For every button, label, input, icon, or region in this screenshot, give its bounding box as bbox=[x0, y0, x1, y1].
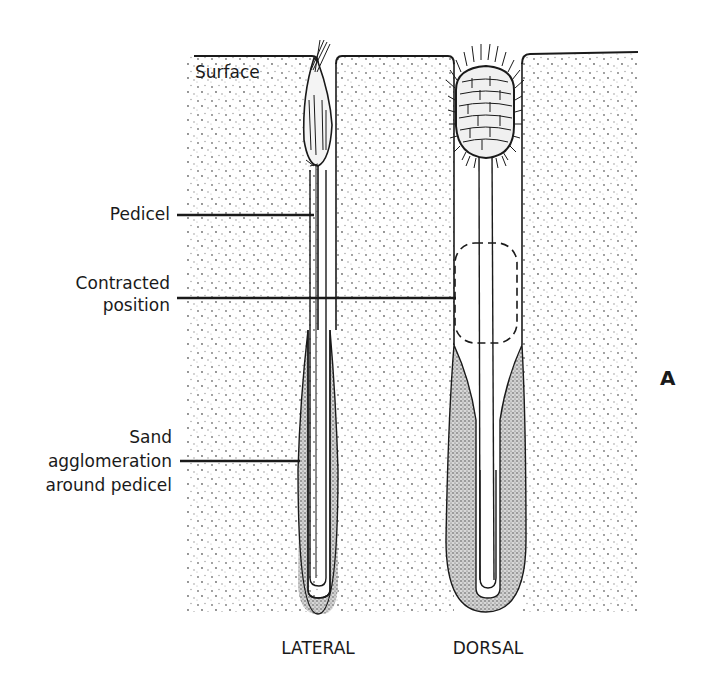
dorsal-view-label: DORSAL bbox=[428, 638, 548, 658]
burrow-diagram bbox=[0, 0, 713, 688]
contracted-position-label-line-1: Contracted bbox=[20, 272, 170, 294]
sand-agglomeration-label-line-2: agglomeration bbox=[10, 449, 172, 473]
panel-letter: A bbox=[660, 368, 675, 388]
sand-agglomeration-label-line-3: around pedicel bbox=[10, 473, 172, 497]
lateral-view-label: LATERAL bbox=[258, 638, 378, 658]
surface-label: Surface bbox=[195, 62, 260, 82]
contracted-position-label-line-2: position bbox=[20, 294, 170, 316]
dorsal-burrow bbox=[446, 44, 526, 612]
sand-agglomeration-label: Sand agglomeration around pedicel bbox=[10, 425, 172, 497]
sand-agglomeration-label-line-1: Sand bbox=[10, 425, 172, 449]
pedicel-label: Pedicel bbox=[40, 204, 170, 224]
sand-substrate bbox=[186, 52, 638, 612]
contracted-position-label: Contracted position bbox=[20, 272, 170, 316]
pedicel-label-line: Pedicel bbox=[40, 204, 170, 224]
